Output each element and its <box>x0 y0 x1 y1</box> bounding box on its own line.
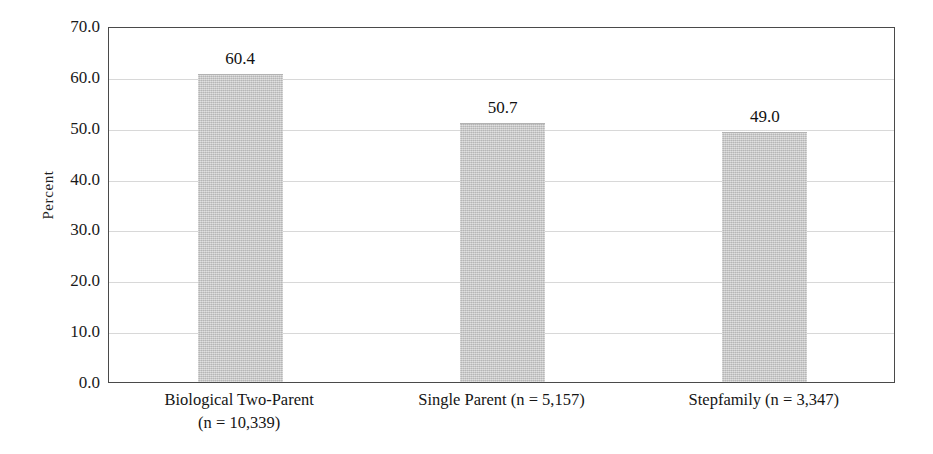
bar[interactable] <box>460 123 545 382</box>
x-axis-category-label: Stepfamily (n = 3,347) <box>689 388 839 411</box>
y-axis-tick-labels: 0.010.020.030.040.050.060.070.0 <box>0 27 100 383</box>
y-axis-tick-label: 60.0 <box>16 68 100 88</box>
plot-area: 60.450.749.0 <box>108 27 895 383</box>
bar-chart-figure: Percent 0.010.020.030.040.050.060.070.0 … <box>0 0 933 454</box>
y-axis-tick-label: 40.0 <box>16 170 100 190</box>
bar-value-label: 50.7 <box>488 98 518 118</box>
x-axis-label-line: Single Parent (n = 5,157) <box>418 390 585 409</box>
x-axis-label-line: (n = 10,339) <box>165 411 314 434</box>
x-axis-category-labels: Biological Two-Parent(n = 10,339)Single … <box>108 388 895 450</box>
y-axis-tick-label: 30.0 <box>16 220 100 240</box>
bar[interactable] <box>198 74 283 382</box>
y-axis-tick-label: 70.0 <box>16 17 100 37</box>
x-axis-label-line: Stepfamily (n = 3,347) <box>689 390 839 409</box>
y-axis-tick-label: 0.0 <box>16 373 100 393</box>
x-axis-category-label: Biological Two-Parent(n = 10,339) <box>165 388 314 434</box>
bar-value-label: 60.4 <box>225 49 255 69</box>
x-axis-category-label: Single Parent (n = 5,157) <box>418 388 585 411</box>
y-axis-tick-label: 20.0 <box>16 271 100 291</box>
y-axis-tick-label: 50.0 <box>16 119 100 139</box>
x-axis-label-line: Biological Two-Parent <box>165 390 314 409</box>
y-axis-tick-label: 10.0 <box>16 322 100 342</box>
bar-value-label: 49.0 <box>750 107 780 127</box>
bar[interactable] <box>722 132 807 382</box>
